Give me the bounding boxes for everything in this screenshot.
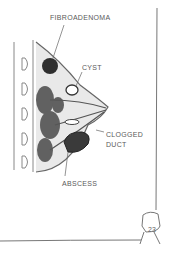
label-clogged-duct-1: CLOGGED bbox=[106, 131, 143, 139]
label-clogged-duct-2: DUCT bbox=[106, 141, 127, 149]
clogged-duct bbox=[65, 120, 79, 125]
breast-illustration bbox=[0, 0, 175, 264]
cyst bbox=[66, 85, 78, 95]
label-abscess: ABSCESS bbox=[62, 180, 97, 188]
chest-wall bbox=[14, 40, 33, 172]
label-fibroadenoma: FIBROADENOMA bbox=[50, 14, 110, 22]
page-number: 23 bbox=[148, 226, 156, 233]
fibroadenoma-mass bbox=[42, 58, 58, 74]
label-cyst: CYST bbox=[82, 64, 102, 72]
